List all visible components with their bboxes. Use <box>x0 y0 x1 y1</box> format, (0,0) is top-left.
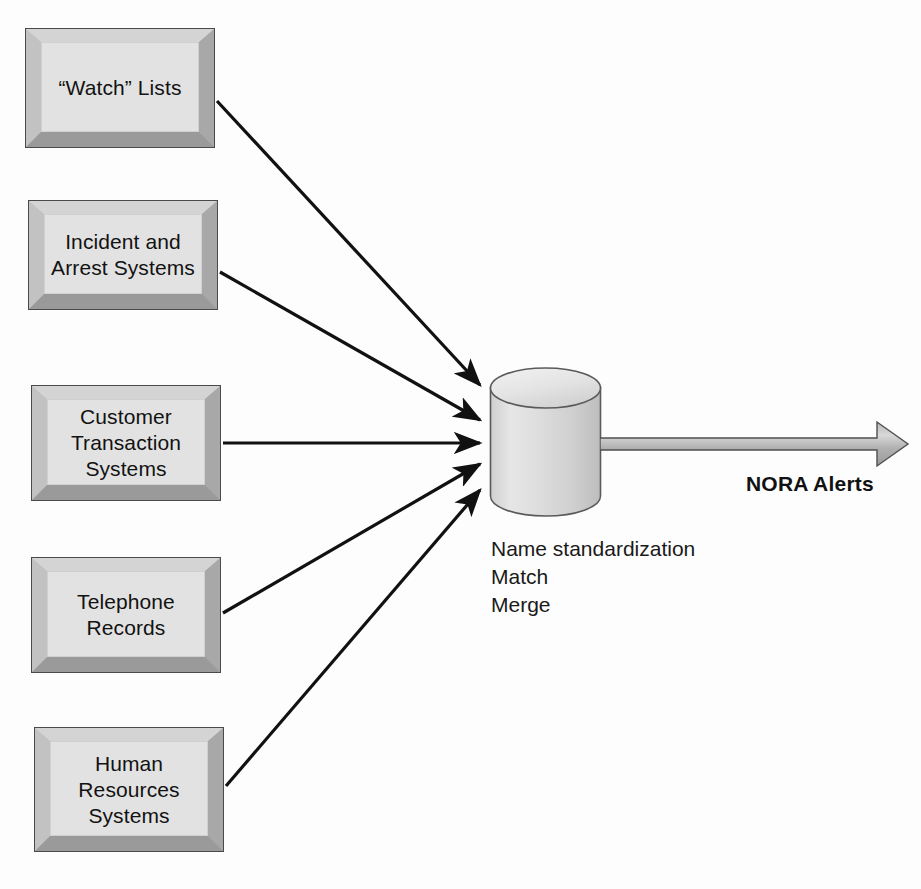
source-box-1[interactable]: Incident and Arrest Systems <box>28 200 218 310</box>
source-box-3[interactable]: Telephone Records <box>31 557 221 673</box>
nora-alerts-label: NORA Alerts <box>746 472 874 496</box>
arrow-human-resources <box>226 490 480 786</box>
nora-database-cylinder <box>489 366 602 518</box>
source-box-2[interactable]: Customer Transaction Systems <box>31 385 221 501</box>
source-box-label: “Watch” Lists <box>58 75 181 101</box>
source-box-label: Incident and Arrest Systems <box>51 229 195 281</box>
source-box-label: Human Resources Systems <box>78 751 179 829</box>
source-box-label: Customer Transaction Systems <box>71 404 181 482</box>
arrow-incident-arrest <box>220 272 480 420</box>
source-box-4[interactable]: Human Resources Systems <box>34 727 224 852</box>
source-box-0[interactable]: “Watch” Lists <box>25 28 215 148</box>
database-process-steps: Name standardization Match Merge <box>491 535 695 619</box>
source-box-label: Telephone Records <box>77 589 175 641</box>
diagram-canvas: “Watch” ListsIncident and Arrest Systems… <box>0 0 921 889</box>
arrow-telephone-records <box>223 464 480 613</box>
arrow-watch-lists <box>217 101 480 385</box>
nora-alerts-output-arrow <box>600 416 910 472</box>
